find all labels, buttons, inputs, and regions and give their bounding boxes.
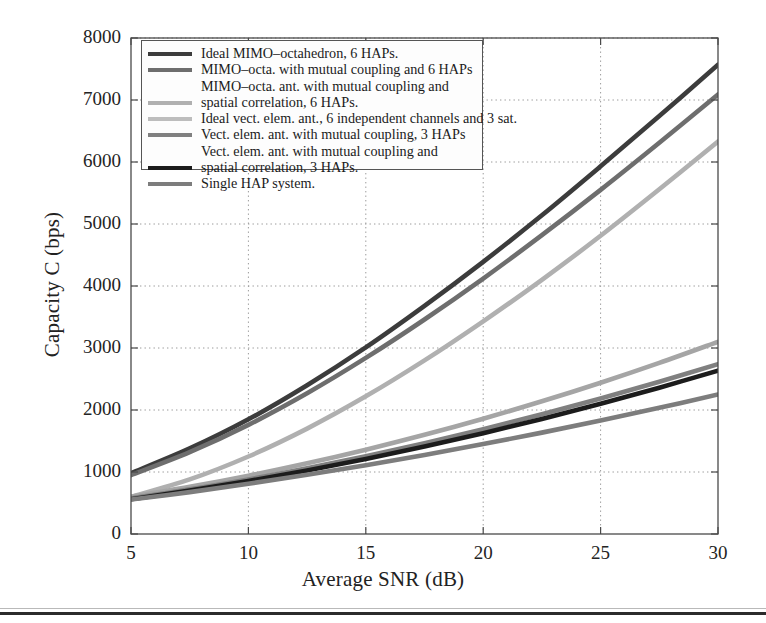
legend-swatch-column <box>148 44 196 192</box>
y-axis-title: Capacity C (bps) <box>40 155 65 415</box>
page-edge-rule <box>0 612 766 615</box>
legend: Ideal MIMO–octahedron, 6 HAPs.MIMO–octa.… <box>141 40 483 170</box>
legend-label: MIMO–octa. ant. with mutual coupling and <box>201 78 517 94</box>
legend-swatch <box>148 117 192 121</box>
legend-swatch-slot <box>148 46 196 62</box>
legend-swatch-slot <box>148 62 196 78</box>
legend-label: Vect. elem. ant. with mutual coupling, 3… <box>201 126 517 142</box>
legend-swatch <box>148 182 192 186</box>
page-edge-hairline <box>0 608 766 609</box>
legend-swatch <box>148 68 192 72</box>
legend-label: Single HAP system. <box>201 175 517 191</box>
y-tick-label: 1000 <box>51 460 121 482</box>
x-tick-label: 10 <box>218 542 278 564</box>
legend-swatch <box>148 101 192 105</box>
y-tick-label: 8000 <box>51 26 121 48</box>
legend-swatch-slot <box>148 127 196 143</box>
legend-swatch <box>148 133 192 137</box>
legend-swatch-slot <box>148 79 196 95</box>
x-tick-label: 25 <box>571 542 631 564</box>
legend-swatch-slot <box>148 111 196 127</box>
y-tick-label: 7000 <box>51 88 121 110</box>
legend-swatch <box>148 166 192 170</box>
x-tick-label: 30 <box>688 542 748 564</box>
legend-swatch-slot <box>148 160 196 176</box>
figure-container: 010002000300040005000600070008000 510152… <box>0 0 766 623</box>
legend-swatch-slot <box>148 176 196 192</box>
legend-label: spatial correlation, 6 HAPs. <box>201 94 517 110</box>
legend-swatch <box>148 52 192 56</box>
x-tick-label: 5 <box>101 542 161 564</box>
x-tick-label: 15 <box>336 542 396 564</box>
legend-label: Vect. elem. ant. with mutual coupling an… <box>201 143 517 159</box>
legend-label: Ideal MIMO–octahedron, 6 HAPs. <box>201 45 517 61</box>
legend-swatch-slot <box>148 95 196 111</box>
legend-label: spatial correlation, 3 HAPs. <box>201 159 517 175</box>
x-tick-label: 20 <box>453 542 513 564</box>
legend-text-column: Ideal MIMO–octahedron, 6 HAPs.MIMO–octa.… <box>196 44 517 191</box>
x-axis-title: Average SNR (dB) <box>0 567 766 592</box>
legend-label: MIMO–octa. with mutual coupling and 6 HA… <box>201 61 517 77</box>
legend-label: Ideal vect. elem. ant., 6 independent ch… <box>201 110 517 126</box>
y-tick-label: 0 <box>51 522 121 544</box>
legend-swatch-slot <box>148 144 196 160</box>
